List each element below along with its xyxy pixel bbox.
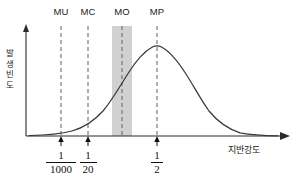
tick-fraction-mc-numerator: 1 bbox=[75, 150, 101, 162]
marker-label-mc: MC bbox=[80, 6, 95, 17]
marker-label-mo: MO bbox=[114, 6, 130, 17]
y-axis-label: 발생빈도 bbox=[3, 48, 17, 90]
y-axis bbox=[23, 24, 29, 136]
x-axis-label: 지반강도 bbox=[228, 143, 260, 156]
chart-container: MU MC MO MP 발생빈도 지반강도 1 1000 1 20 1 2 bbox=[0, 0, 298, 181]
distribution-curve bbox=[29, 46, 278, 136]
tick-fraction-mc: 1 20 bbox=[75, 150, 101, 175]
tick-arrow-mc bbox=[85, 136, 90, 146]
marker-label-mp: MP bbox=[150, 6, 165, 17]
tick-fraction-mp: 1 2 bbox=[146, 150, 168, 175]
tick-fraction-mc-denominator: 20 bbox=[75, 163, 101, 175]
tick-arrow-mp bbox=[154, 136, 159, 146]
tick-fraction-mp-denominator: 2 bbox=[146, 163, 168, 175]
marker-label-mu: MU bbox=[53, 6, 68, 17]
tick-arrow-mu bbox=[58, 136, 63, 146]
tick-fraction-mp-numerator: 1 bbox=[146, 150, 168, 162]
